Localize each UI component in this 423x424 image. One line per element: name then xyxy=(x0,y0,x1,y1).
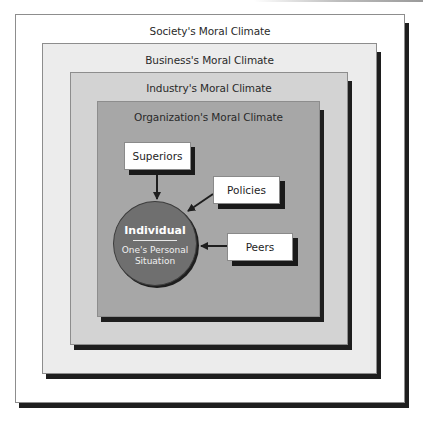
individual-divider xyxy=(133,240,177,241)
individual-subtitle: One's Personal Situation xyxy=(116,245,194,267)
superiors-box: Superiors xyxy=(124,142,191,170)
individual-title: Individual xyxy=(114,224,196,237)
individual-circle: Individual One's Personal Situation xyxy=(113,201,197,286)
policies-arrow xyxy=(188,194,213,211)
influence-arrows xyxy=(0,0,423,424)
policies-box: Policies xyxy=(213,176,280,204)
peers-box: Peers xyxy=(227,233,293,261)
